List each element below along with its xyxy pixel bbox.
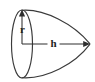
radius-label: r bbox=[20, 23, 25, 35]
geometry-diagram: Solid of revolution with circular base r… bbox=[0, 0, 95, 82]
diagram-canvas: Solid of revolution with circular base r… bbox=[0, 0, 95, 82]
height-label: h bbox=[50, 37, 56, 49]
